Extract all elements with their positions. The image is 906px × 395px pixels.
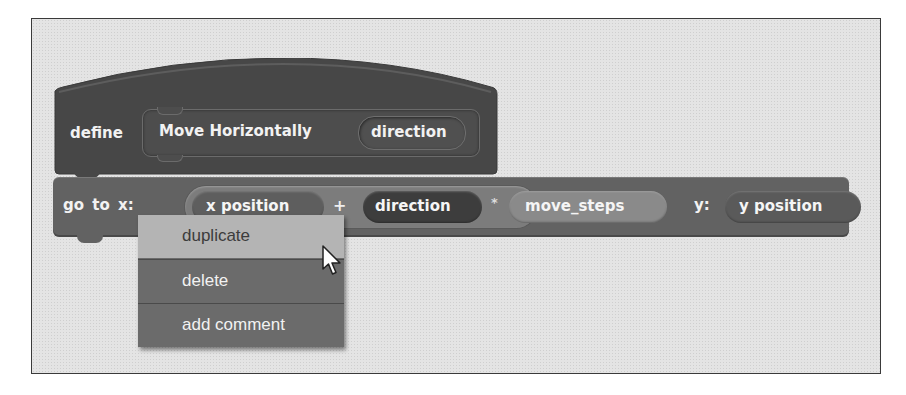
direction-label: direction: [375, 197, 451, 215]
goto-label: go to x:: [63, 196, 134, 214]
x-position-label: x position: [206, 197, 289, 215]
goto-block-notch: [77, 235, 103, 243]
plus-operator: +: [333, 196, 346, 215]
custom-block-prototype[interactable]: Move Horizontally direction: [142, 109, 480, 157]
parameter-direction[interactable]: direction: [358, 116, 466, 150]
menu-item-label: delete: [182, 271, 228, 291]
y-position-reporter[interactable]: y position: [725, 191, 861, 223]
menu-item-label: add comment: [182, 315, 285, 335]
menu-item-duplicate[interactable]: duplicate: [138, 215, 344, 258]
context-menu: duplicate delete add comment: [138, 215, 344, 347]
direction-reporter[interactable]: direction: [363, 191, 482, 223]
multiply-operator: *: [491, 195, 498, 210]
prototype-label: Move Horizontally: [159, 122, 312, 140]
prototype-notch-top: [157, 107, 183, 115]
move-steps-reporter[interactable]: move_steps: [509, 191, 667, 223]
move-steps-label: move_steps: [525, 197, 624, 215]
define-keyword: define: [70, 124, 123, 142]
arrow-pointer-icon: [322, 245, 344, 277]
y-position-label: y position: [739, 197, 822, 215]
script-canvas[interactable]: define Move Horizontally direction go to…: [31, 18, 881, 374]
menu-item-label: duplicate: [182, 226, 250, 246]
prototype-notch-bottom: [157, 155, 183, 162]
menu-item-add-comment[interactable]: add comment: [138, 303, 344, 347]
menu-item-delete[interactable]: delete: [138, 259, 344, 303]
parameter-label: direction: [371, 123, 447, 141]
y-label: y:: [694, 196, 710, 214]
